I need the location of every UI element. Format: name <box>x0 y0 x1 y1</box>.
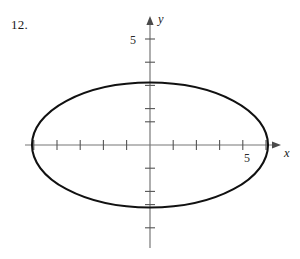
y-axis-name-label: y <box>156 12 164 26</box>
y-axis-tick-label-5: 5 <box>130 33 136 47</box>
coordinate-plane-plot: 5 5 y x <box>0 0 300 259</box>
y-axis-arrow-icon <box>146 16 153 25</box>
x-axis-tick-label-5: 5 <box>244 151 250 165</box>
figure-container: 12. <box>0 0 300 259</box>
x-axis-name-label: x <box>283 146 290 160</box>
x-axis-arrow-icon <box>272 141 281 148</box>
